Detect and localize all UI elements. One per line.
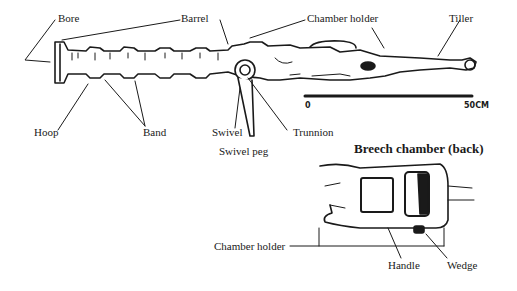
inset-wedge <box>414 226 424 233</box>
wedge-slot <box>361 62 375 70</box>
label-inset-handle: Handle <box>388 259 420 271</box>
trunnion-ring <box>235 60 255 80</box>
inset-title: Breech chamber (back) <box>354 141 484 157</box>
label-swivel: Swivel <box>212 126 243 138</box>
label-trunnion: Trunnion <box>293 126 334 138</box>
label-chamber-holder-top: Chamber holder <box>307 12 378 24</box>
label-band: Band <box>143 126 166 138</box>
barrel-outline <box>55 42 476 83</box>
label-tiller: Tiller <box>449 12 473 24</box>
label-bore: Bore <box>58 12 79 24</box>
label-inset-wedge: Wedge <box>447 259 477 271</box>
inset-breech-chamber <box>290 164 474 258</box>
scale-end: 50CM <box>464 101 489 110</box>
scale-start: 0 <box>305 101 311 110</box>
inset-window-left <box>361 178 393 212</box>
label-hoop: Hoop <box>34 126 58 138</box>
label-barrel: Barrel <box>181 12 208 24</box>
label-inset-chamber-holder: Chamber holder <box>214 240 285 252</box>
label-swivel-peg: Swivel peg <box>219 145 268 157</box>
